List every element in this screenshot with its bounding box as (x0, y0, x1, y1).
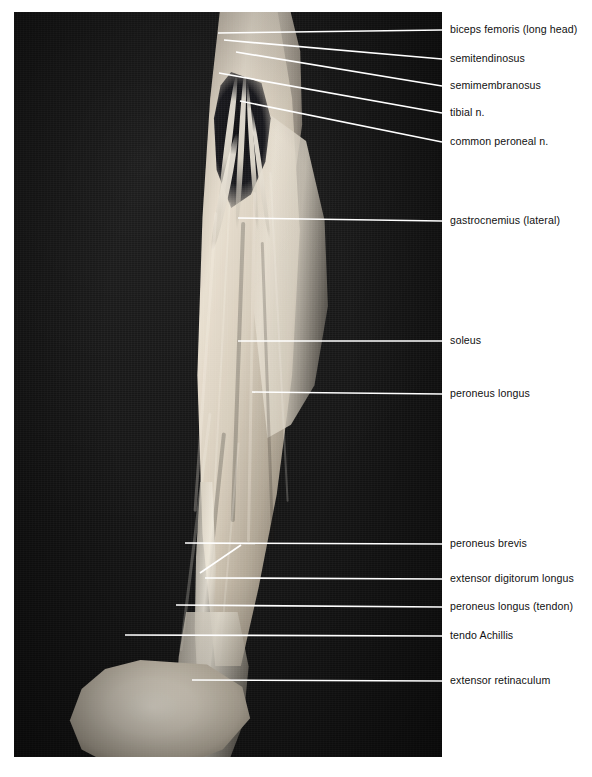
anatomy-figure: biceps femoris (long head)semitendinosus… (0, 0, 592, 777)
label-biceps-femoris-long-head: biceps femoris (long head) (450, 24, 577, 35)
label-tendo-achillis: tendo Achillis (450, 630, 513, 641)
leader-line-biceps-femoris-long-head (218, 30, 442, 33)
label-gastrocnemius-lateral: gastrocnemius (lateral) (450, 215, 560, 226)
label-extensor-retinaculum: extensor retinaculum (450, 675, 550, 686)
label-peroneus-brevis: peroneus brevis (450, 538, 527, 549)
leader-line-peroneus-brevis (185, 543, 442, 544)
leader-line-peroneus-longus-tendon (176, 605, 442, 607)
leader-line-tibial-n (219, 73, 442, 113)
leader-branch-peroneus-brevis (200, 545, 241, 573)
label-tibial-n: tibial n. (450, 107, 484, 118)
label-common-peroneal-n: common peroneal n. (450, 136, 548, 147)
label-peroneus-longus: peroneus longus (450, 388, 530, 399)
label-extensor-digitorum-longus: extensor digitorum longus (450, 573, 574, 584)
leader-line-gastrocnemius-lateral (238, 218, 442, 221)
leader-line-extensor-retinaculum (192, 680, 442, 681)
label-soleus: soleus (450, 335, 481, 346)
label-semitendinosus: semitendinosus (450, 53, 525, 64)
label-peroneus-longus-tendon: peroneus longus (tendon) (450, 601, 573, 612)
leader-line-extensor-digitorum-longus (205, 578, 442, 579)
label-semimembranosus: semimembranosus (450, 80, 541, 91)
leader-line-tendo-achillis (125, 635, 442, 636)
leader-line-peroneus-longus (252, 392, 442, 394)
